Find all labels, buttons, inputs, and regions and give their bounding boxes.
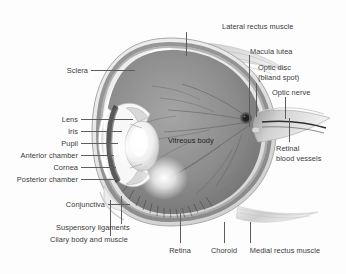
- label-optic-disc-line1: Optic disc: [258, 63, 299, 73]
- label-medial-rectus-muscle: Medial rectus muscle: [249, 246, 321, 256]
- label-cornea: Cornea: [53, 163, 78, 173]
- leader-posterior-chamber: [81, 179, 118, 180]
- label-retina: Retina: [160, 246, 200, 256]
- leader-retina: [180, 213, 181, 243]
- leader-conjunctiva: [108, 204, 130, 205]
- leader-optic-disc: [256, 83, 257, 117]
- label-conjunctiva: Conjunctiva: [66, 200, 105, 210]
- leader-retinal-blood-vessels: [289, 118, 290, 142]
- leader-lens: [81, 119, 133, 120]
- leader-optic-nerve: [285, 97, 286, 119]
- leader-suspensory-ligaments: [121, 196, 122, 224]
- label-pupil: Pupil: [61, 139, 78, 149]
- leader-cornea: [81, 167, 116, 168]
- eye-anatomy-figure: Eye anatomy: [0, 0, 346, 274]
- leader-medial-rectus-muscle: [250, 222, 251, 243]
- label-optic-disc: Optic disc (bliand spot): [258, 63, 299, 82]
- label-posterior-chamber: Posterior chamber: [17, 175, 78, 185]
- leader-pupil: [81, 143, 118, 144]
- label-retinal-blood-vessels-line1: Retinal: [276, 144, 321, 154]
- label-suspensory-ligaments: Suspensory ligaments: [56, 223, 130, 233]
- optic-disc-structure: [240, 112, 253, 125]
- label-optic-disc-line2: (bliand spot): [258, 73, 299, 83]
- label-lateral-rectus-muscle: Lateral rectus muscle: [222, 22, 293, 32]
- leader-choroid: [224, 222, 225, 243]
- leader-lateral-rectus-muscle: [186, 32, 187, 56]
- label-retinal-blood-vessels: Retinal blood vessels: [276, 144, 321, 163]
- label-anterior-chamber: Anterior chamber: [21, 151, 79, 161]
- label-cilary-body-and-muscle: Cilary body and muscle: [50, 235, 128, 245]
- leader-sclera: [91, 70, 135, 71]
- label-lens: Lens: [62, 115, 78, 125]
- label-iris: Iris: [68, 127, 78, 137]
- leader-anterior-chamber: [81, 155, 114, 156]
- label-vitreous-body: Vitreous body: [168, 136, 214, 146]
- label-optic-nerve: Optic nerve: [272, 88, 310, 98]
- macula-lutea-structure: [252, 127, 260, 133]
- label-choroid: Choroid: [202, 246, 246, 256]
- leader-iris: [81, 131, 122, 132]
- leader-macula-lutea: [249, 55, 250, 127]
- label-retinal-blood-vessels-line2: blood vessels: [276, 154, 321, 164]
- label-macula-lutea: Macula lutea: [250, 47, 293, 57]
- label-sclera: Sclera: [67, 66, 88, 76]
